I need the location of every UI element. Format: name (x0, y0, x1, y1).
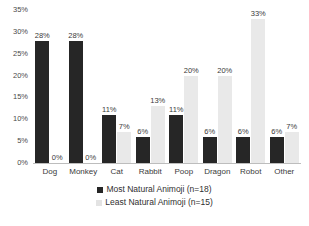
x-axis-label: Other (268, 165, 302, 179)
legend-item[interactable]: Least Natural Animoji (n=15) (96, 197, 213, 208)
bar-slot: 6% (203, 10, 217, 163)
bar-slot: 28% (69, 10, 83, 163)
bar-value-label: 7% (119, 123, 130, 131)
legend-swatch-icon (97, 187, 103, 193)
bar-slot: 33% (251, 10, 265, 163)
bar-value-label: 20% (184, 67, 199, 75)
bar[interactable] (203, 137, 217, 163)
bar-slot: 20% (184, 10, 198, 163)
y-axis-tick: 35% (13, 6, 28, 14)
bar-slot: 13% (151, 10, 165, 163)
bar-group: 28%0% (33, 10, 67, 163)
bar-group: 11%20% (167, 10, 201, 163)
bar[interactable] (236, 137, 250, 163)
bar[interactable] (285, 132, 299, 163)
legend-item[interactable]: Most Natural Animoji (n=18) (97, 184, 211, 195)
y-axis: 35%30%25%20%15%10%5%0% (0, 0, 31, 163)
bar[interactable] (169, 115, 183, 163)
bar-value-label: 13% (150, 97, 165, 105)
bar[interactable] (151, 106, 165, 163)
bar-slot: 0% (50, 10, 64, 163)
x-axis-label: Poop (167, 165, 201, 179)
bar[interactable] (136, 137, 150, 163)
y-axis-tick: 5% (17, 137, 28, 145)
bar-slot: 7% (117, 10, 131, 163)
bar-slot: 28% (35, 10, 49, 163)
legend-label: Most Natural Animoji (n=18) (106, 184, 211, 195)
bar-value-label: 20% (217, 67, 232, 75)
bar-slot: 7% (285, 10, 299, 163)
x-axis-label: Dog (33, 165, 67, 179)
y-axis-tick: 20% (13, 72, 28, 80)
x-axis-category-labels: DogMonkeyCatRabbitPoopDragonRobotOther (33, 165, 301, 179)
y-axis-tick: 30% (13, 28, 28, 36)
bar-slot: 6% (136, 10, 150, 163)
bar-slot: 6% (236, 10, 250, 163)
legend-swatch-icon (96, 200, 102, 206)
x-axis-label: Robot (234, 165, 268, 179)
plot-area: 28%0%28%0%11%7%6%13%11%20%6%20%6%33%6%7% (33, 10, 301, 163)
bar[interactable] (270, 137, 284, 163)
legend-label: Least Natural Animoji (n=15) (105, 197, 213, 208)
bar-value-label: 0% (52, 154, 63, 162)
bar-group: 6%20% (201, 10, 235, 163)
bar-value-label: 6% (271, 128, 282, 136)
bar-group: 6%13% (134, 10, 168, 163)
bar-slot: 6% (270, 10, 284, 163)
x-axis-label: Monkey (67, 165, 101, 179)
bar[interactable] (251, 19, 265, 163)
bar[interactable] (184, 76, 198, 163)
bar-value-label: 6% (137, 128, 148, 136)
bar-value-label: 7% (286, 123, 297, 131)
bar-group: 28%0% (67, 10, 101, 163)
bar[interactable] (102, 115, 116, 163)
x-axis-label: Cat (100, 165, 134, 179)
bar-value-label: 0% (85, 154, 96, 162)
bar-value-label: 11% (102, 106, 116, 114)
bar-value-label: 33% (251, 10, 266, 18)
y-axis-tick: 25% (13, 50, 28, 58)
y-axis-tick: 10% (13, 115, 28, 123)
bar-group: 11%7% (100, 10, 134, 163)
bar-value-label: 11% (169, 106, 183, 114)
bar-value-label: 28% (35, 32, 50, 40)
bar-slot: 20% (218, 10, 232, 163)
y-axis-tick: 0% (17, 159, 28, 167)
bar-groups: 28%0%28%0%11%7%6%13%11%20%6%20%6%33%6%7% (33, 10, 301, 163)
chart-legend: Most Natural Animoji (n=18)Least Natural… (0, 184, 309, 208)
bar-value-label: 6% (204, 128, 215, 136)
bar[interactable] (69, 41, 83, 163)
bar-value-label: 6% (238, 128, 249, 136)
x-axis-label: Dragon (201, 165, 235, 179)
bar-group: 6%33% (234, 10, 268, 163)
bar-slot: 11% (169, 10, 183, 163)
bar-slot: 11% (102, 10, 116, 163)
bar[interactable] (117, 132, 131, 163)
bar-chart: 35%30%25%20%15%10%5%0% 28%0%28%0%11%7%6%… (0, 0, 309, 226)
bar-value-label: 28% (68, 32, 83, 40)
bar[interactable] (35, 41, 49, 163)
bar[interactable] (218, 76, 232, 163)
x-axis-label: Rabbit (134, 165, 168, 179)
bar-group: 6%7% (268, 10, 302, 163)
bar-slot: 0% (84, 10, 98, 163)
y-axis-tick: 15% (13, 93, 28, 101)
